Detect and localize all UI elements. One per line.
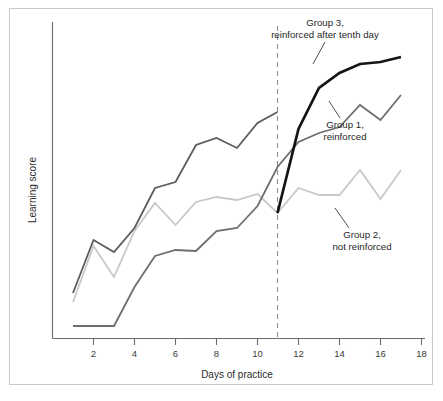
x-axis-title: Days of practice: [201, 369, 273, 380]
annotation-group-2-line-1: Group 2,: [343, 229, 381, 240]
annotation-group-2-leader: [335, 208, 349, 228]
annotation-group-1-line-1: Group 1,: [326, 119, 364, 130]
annotation-group-3-leader: [313, 42, 325, 64]
x-tick-label-10: 10: [252, 348, 263, 359]
series-line-group-3-pre: [73, 112, 278, 293]
x-tick-label-12: 12: [293, 348, 304, 359]
x-axis-tick-labels: 2 4 6 8 10 12 14 16 18: [91, 348, 427, 359]
x-tick-label-18: 18: [416, 348, 427, 359]
x-tick-label-2: 2: [91, 348, 96, 359]
chart-figure: 2 4 6 8 10 12 14 16 18 Days of practice …: [0, 0, 443, 401]
annotation-group-3: Group 3, reinforced after tenth day: [271, 17, 379, 64]
annotation-group-3-line-2: reinforced after tenth day: [271, 29, 379, 40]
y-axis-title: Learning score: [27, 156, 38, 223]
annotation-group-1-leader: [329, 101, 340, 118]
axes-group: [53, 22, 426, 339]
annotation-group-1-line-2: reinforced: [323, 131, 366, 142]
annotation-group-2: Group 2, not reinforced: [332, 208, 391, 252]
x-axis-ticks: [94, 339, 422, 346]
x-tick-label-4: 4: [132, 348, 137, 359]
x-tick-label-6: 6: [173, 348, 178, 359]
annotation-group-2-line-2: not reinforced: [332, 241, 391, 252]
x-tick-label-8: 8: [214, 348, 219, 359]
line-chart-plot: 2 4 6 8 10 12 14 16 18 Days of practice …: [0, 0, 443, 401]
annotation-group-1: Group 1, reinforced: [323, 101, 366, 142]
annotation-group-3-line-1: Group 3,: [306, 17, 344, 28]
x-tick-label-16: 16: [375, 348, 386, 359]
x-tick-label-14: 14: [334, 348, 345, 359]
